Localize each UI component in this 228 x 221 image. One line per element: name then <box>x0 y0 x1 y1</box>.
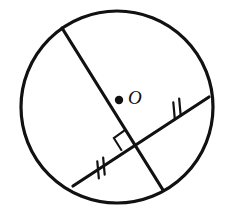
tick-mark <box>103 158 105 175</box>
right-angle-marker <box>114 129 126 150</box>
circle-outline <box>21 11 213 203</box>
chord-upper-left-to-lower-right <box>62 28 163 190</box>
center-point-label: O <box>128 87 142 108</box>
tick-mark <box>179 99 181 116</box>
tick-mark <box>97 161 99 178</box>
geometry-canvas: O <box>0 0 228 221</box>
center-point-dot <box>115 96 123 104</box>
geometry-figure: O <box>0 0 228 221</box>
tick-mark <box>173 102 175 119</box>
